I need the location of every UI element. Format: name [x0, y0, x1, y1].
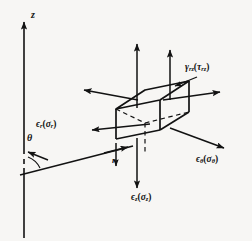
- shear-component-label: γrz(τrz): [185, 63, 209, 73]
- z-axis-label: z: [31, 10, 35, 20]
- radial-arrow-left-upper: [84, 90, 138, 100]
- theta-angle-arc: [28, 157, 40, 168]
- cube-element: [116, 81, 189, 152]
- axial-stress-arrows-down: [116, 138, 137, 188]
- shear-close-paren: ): [206, 62, 209, 72]
- hoop-stress-arrows-right: [163, 77, 224, 148]
- axial-stress-arrows-up: [137, 44, 170, 108]
- radial-close-paren: ): [53, 119, 56, 129]
- axial-component-label: ϵz(σz): [131, 193, 151, 203]
- radial-axis-label: r: [112, 156, 116, 165]
- radial-arrow-left-lower: [92, 124, 150, 130]
- radial-component-label: ϵr(σr): [36, 120, 56, 130]
- hoop-close-paren: ): [215, 154, 218, 164]
- hoop-arrow-right-lower: [170, 128, 224, 148]
- axial-close-paren: ): [148, 192, 151, 202]
- hoop-component-label: ϵθ(σθ): [196, 155, 218, 165]
- figure-container: z θ r γrz(τrz) ϵr(σr) ϵθ(σθ) ϵz(σz): [0, 0, 252, 241]
- shear-leader-line: [175, 77, 197, 86]
- theta-angle-label: θ: [27, 133, 32, 143]
